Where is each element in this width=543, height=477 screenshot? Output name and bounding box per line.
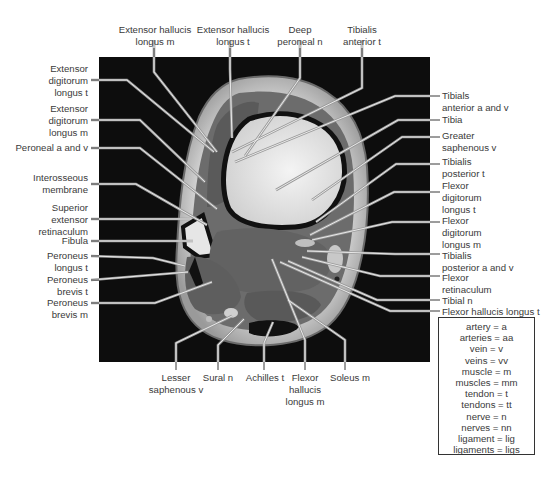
label-line: Flexor [442, 180, 481, 192]
legend-row: tendons = tt [439, 399, 534, 410]
label-line: Greater [442, 130, 496, 142]
label-line: Tibialis [332, 24, 392, 36]
label-line: anterior a and v [442, 102, 509, 114]
legend-row: arteries = aa [439, 332, 534, 343]
label-line: Flexor [282, 372, 328, 384]
legend-row: muscles = mm [439, 377, 534, 388]
legend-row: ligaments = ligs [439, 444, 534, 455]
mri-axial-ankle-image [99, 57, 430, 362]
label-line: digitorum [49, 75, 88, 87]
legend-row: vein = v [439, 343, 534, 354]
label-extensor-digitorum-longus-m: Extensor digitorum longus m [49, 103, 88, 139]
label-line: saphenous v [442, 142, 496, 154]
legend-row: nerves = nn [439, 422, 534, 433]
legend-row: muscle = m [439, 366, 534, 377]
label-line: Soleus m [328, 372, 372, 384]
label-sural-n: Sural n [198, 372, 238, 384]
label-line: Peroneal a and v [15, 142, 88, 154]
label-tibialis-posterior-t: Tibialis posterior t [442, 156, 485, 180]
label-tibialis-anterior-a-and-v: Tibials anterior a and v [442, 90, 509, 114]
label-line: anterior t [332, 36, 392, 48]
label-line: brevis m [47, 309, 88, 321]
label-line: digitorum [442, 227, 481, 239]
label-line: digitorum [442, 192, 481, 204]
legend-row: ligament = lig [439, 433, 534, 444]
label-line: Sural n [198, 372, 238, 384]
abbreviation-legend: artery = a arteries = aa vein = v veins … [438, 317, 535, 455]
legend-row: veins = vv [439, 355, 534, 366]
label-line: peroneal n [270, 36, 330, 48]
label-extensor-hallucis-longus-t: Extensor hallucis longus t [188, 24, 278, 48]
label-line: Peroneus [47, 297, 88, 309]
label-peroneus-brevis-t: Peroneus brevis t [47, 274, 88, 298]
label-line: Tibialis [442, 250, 513, 262]
legend-row: tendon = t [439, 388, 534, 399]
label-line: extensor [38, 214, 88, 226]
label-fibula: Fibula [62, 235, 88, 247]
label-line: Peroneus [47, 250, 88, 262]
label-soleus-m: Soleus m [328, 372, 372, 384]
label-line: Interosseous [33, 172, 88, 184]
legend-row: nerve = n [439, 411, 534, 422]
label-peroneus-brevis-m: Peroneus brevis m [47, 297, 88, 321]
label-extensor-hallucis-longus-m: Extensor hallucis longus m [110, 24, 200, 48]
label-line: Extensor hallucis [110, 24, 200, 36]
label-greater-saphenous-v: Greater saphenous v [442, 130, 496, 154]
label-line: longus t [47, 262, 88, 274]
label-tibialis-anterior-t: Tibialis anterior t [332, 24, 392, 48]
label-line: Extensor [49, 103, 88, 115]
label-line: Fibula [62, 235, 88, 247]
label-line: Tibialis [442, 156, 485, 168]
label-line: Peroneus [47, 274, 88, 286]
label-peroneus-longus-t: Peroneus longus t [47, 250, 88, 274]
label-line: Flexor [442, 272, 492, 284]
label-line: posterior t [442, 168, 485, 180]
label-tibia: Tibia [442, 114, 462, 126]
label-line: longus t [188, 36, 278, 48]
label-line: Superior [38, 202, 88, 214]
label-line: digitorum [49, 115, 88, 127]
label-flexor-digitorum-longus-t: Flexor digitorum longus t [442, 180, 481, 216]
label-line: longus t [49, 87, 88, 99]
mri-drawing [99, 57, 430, 362]
label-interosseous-membrane: Interosseous membrane [33, 172, 88, 196]
label-line: hallucis [282, 384, 328, 396]
label-superior-extensor-retinaculum: Superior extensor retinaculum [38, 202, 88, 238]
label-line: Extensor hallucis [188, 24, 278, 36]
label-line: Flexor [442, 215, 481, 227]
tibia [224, 114, 345, 228]
label-flexor-hallucis-longus-m: Flexor hallucis longus m [282, 372, 328, 408]
label-line: Tibia [442, 114, 462, 126]
label-peroneal-a-and-v: Peroneal a and v [15, 142, 88, 154]
label-line: longus m [282, 396, 328, 408]
label-flexor-digitorum-longus-m: Flexor digitorum longus m [442, 215, 481, 251]
label-flexor-retinaculum: Flexor retinaculum [442, 272, 492, 296]
label-line: Extensor [49, 63, 88, 75]
label-tibialis-posterior-a-and-v: Tibialis posterior a and v [442, 250, 513, 274]
legend-row: artery = a [439, 321, 534, 332]
label-extensor-digitorum-longus-t: Extensor digitorum longus t [49, 63, 88, 99]
label-line: Deep [270, 24, 330, 36]
label-line: longus m [110, 36, 200, 48]
label-line: membrane [33, 184, 88, 196]
label-line: saphenous v [141, 384, 211, 396]
label-line: Tibials [442, 90, 509, 102]
label-line: longus m [49, 127, 88, 139]
label-deep-peroneal-n: Deep peroneal n [270, 24, 330, 48]
